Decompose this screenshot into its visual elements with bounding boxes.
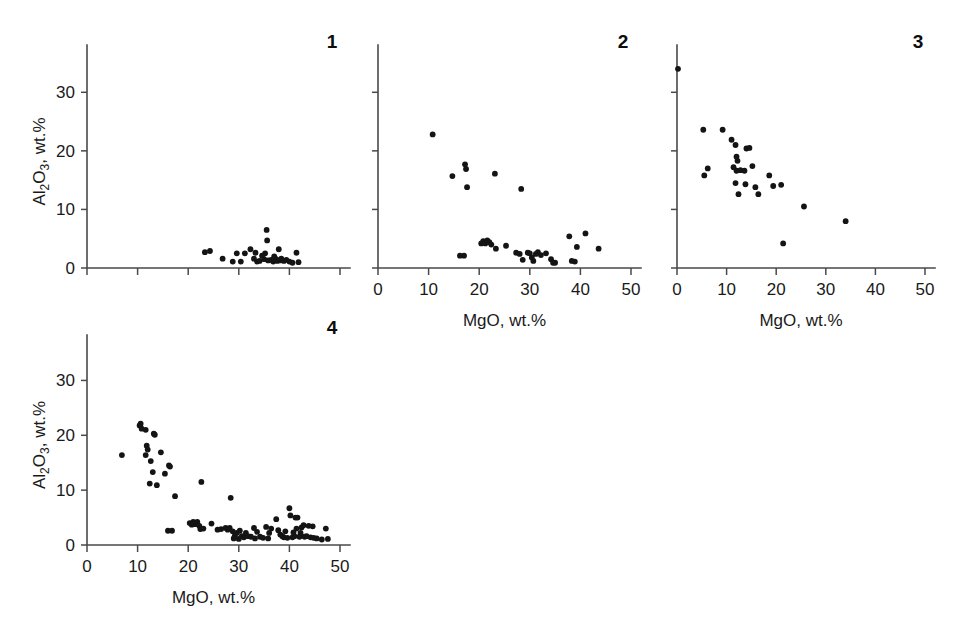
data-point bbox=[234, 250, 240, 256]
data-point bbox=[566, 233, 572, 239]
data-point bbox=[325, 536, 331, 542]
data-point bbox=[596, 246, 602, 252]
data-point bbox=[143, 452, 149, 458]
x-tick-label: 40 bbox=[866, 280, 885, 299]
x-tick-label: 0 bbox=[373, 280, 382, 299]
x-tick-label: 10 bbox=[128, 557, 147, 576]
data-point bbox=[461, 253, 467, 259]
panel-number-label: 1 bbox=[327, 31, 338, 52]
data-point bbox=[552, 260, 558, 266]
data-point bbox=[260, 535, 266, 541]
data-point bbox=[228, 495, 234, 501]
panel-number-label: 4 bbox=[327, 317, 338, 338]
axis-lines bbox=[87, 45, 350, 268]
x-axis-title: MgO, wt.% bbox=[463, 311, 546, 330]
data-point bbox=[770, 183, 776, 189]
data-point bbox=[150, 469, 156, 475]
data-point bbox=[284, 535, 290, 541]
data-point bbox=[200, 526, 206, 532]
data-point bbox=[743, 181, 749, 187]
data-point bbox=[287, 505, 293, 511]
scatter-panel-1: 01020301Al2O3, wt.% bbox=[60, 30, 345, 275]
x-tick-label: 50 bbox=[916, 280, 935, 299]
data-point bbox=[264, 238, 270, 244]
data-point bbox=[766, 173, 772, 179]
data-point bbox=[735, 158, 741, 164]
data-point bbox=[209, 521, 215, 527]
x-axis-title: MgO, wt.% bbox=[172, 588, 255, 607]
data-point bbox=[282, 528, 288, 534]
data-point bbox=[520, 257, 526, 263]
x-tick-label: 10 bbox=[419, 280, 438, 299]
data-point bbox=[755, 191, 761, 197]
y-axis-title: Al2O3, wt.% bbox=[30, 117, 52, 205]
x-tick-label: 30 bbox=[229, 557, 248, 576]
y-tick-label: 20 bbox=[56, 142, 75, 161]
data-point bbox=[503, 243, 509, 249]
data-point bbox=[202, 249, 208, 255]
scatter-panel-4: 0102030010203040504MgO, wt.%Al2O3, wt.% bbox=[60, 320, 345, 575]
data-point bbox=[119, 452, 125, 458]
data-point bbox=[843, 218, 849, 224]
data-point bbox=[296, 259, 302, 265]
y-tick-label: 20 bbox=[56, 426, 75, 445]
data-point bbox=[778, 182, 784, 188]
data-point bbox=[162, 471, 168, 477]
data-point bbox=[705, 166, 711, 172]
data-point bbox=[238, 259, 244, 265]
axis-lines bbox=[378, 45, 641, 268]
data-point bbox=[752, 184, 758, 190]
data-point bbox=[733, 142, 739, 148]
data-point bbox=[310, 523, 316, 529]
y-tick-label: 10 bbox=[56, 200, 75, 219]
data-point bbox=[749, 163, 755, 169]
data-point bbox=[242, 250, 248, 256]
data-point bbox=[254, 529, 260, 535]
data-point bbox=[430, 132, 436, 138]
data-point bbox=[288, 512, 294, 518]
data-point bbox=[747, 145, 753, 151]
data-point bbox=[264, 227, 270, 233]
data-point bbox=[319, 537, 325, 543]
x-tick-label: 20 bbox=[470, 280, 489, 299]
y-tick-label: 10 bbox=[56, 481, 75, 500]
y-tick-label: 30 bbox=[56, 83, 75, 102]
y-tick-label: 0 bbox=[66, 259, 75, 278]
data-point bbox=[301, 522, 307, 528]
data-point bbox=[215, 527, 221, 533]
data-point bbox=[314, 536, 320, 542]
data-point bbox=[675, 66, 681, 72]
x-tick-label: 40 bbox=[280, 557, 299, 576]
data-point bbox=[720, 127, 726, 133]
data-point-series bbox=[430, 132, 602, 266]
data-point bbox=[145, 447, 151, 453]
data-point bbox=[143, 427, 149, 433]
data-point bbox=[543, 250, 549, 256]
data-point bbox=[733, 180, 739, 186]
data-point bbox=[154, 482, 160, 488]
x-tick-label: 20 bbox=[179, 557, 198, 576]
data-point bbox=[236, 536, 242, 542]
data-point bbox=[464, 184, 470, 190]
data-point bbox=[780, 241, 786, 247]
data-point bbox=[291, 529, 297, 535]
data-point bbox=[259, 253, 265, 259]
x-tick-label: 0 bbox=[82, 557, 91, 576]
data-point bbox=[736, 191, 742, 197]
x-tick-label: 10 bbox=[717, 280, 736, 299]
y-tick-label: 30 bbox=[56, 371, 75, 390]
data-point bbox=[263, 524, 269, 530]
y-axis-title: Al2O3, wt.% bbox=[30, 401, 52, 489]
data-point bbox=[230, 259, 236, 265]
data-point bbox=[530, 258, 536, 264]
data-point bbox=[138, 421, 144, 427]
data-point bbox=[294, 250, 300, 256]
data-point bbox=[207, 248, 213, 254]
data-point bbox=[574, 244, 580, 250]
data-point bbox=[265, 536, 271, 542]
data-point bbox=[220, 256, 226, 262]
data-point bbox=[729, 137, 735, 143]
axis-lines bbox=[87, 335, 350, 545]
panel-number-label: 3 bbox=[913, 31, 924, 52]
data-point bbox=[298, 530, 304, 536]
